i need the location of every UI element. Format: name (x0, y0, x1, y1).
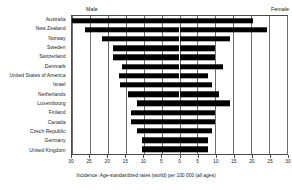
bar-row (72, 16, 287, 25)
bar-female (180, 119, 216, 124)
bar-male (72, 18, 180, 23)
bar-row (72, 25, 287, 34)
category-label: United Kingdom (0, 146, 68, 155)
bar-female (180, 36, 230, 41)
axis-tick-label: 5 (160, 159, 163, 164)
bar-female (180, 73, 209, 78)
bar-male (128, 92, 180, 97)
bar-female (180, 27, 268, 32)
category-axis-labels: AustraliaNew ZealandNorwaySwedenSwitzerl… (0, 15, 68, 155)
bar-female (180, 82, 212, 87)
axis-tick-label: 30 (285, 159, 290, 164)
bar-row (72, 145, 287, 154)
bar-male (113, 55, 179, 60)
bar-female (180, 110, 216, 115)
gridline (287, 16, 288, 154)
axis-tick-label: 30 (68, 159, 73, 164)
category-label: Norway (0, 34, 68, 43)
bar-male (131, 110, 179, 115)
bar-female (180, 46, 216, 51)
bar-row (72, 80, 287, 89)
bar-male (137, 128, 180, 133)
bar-row (72, 117, 287, 126)
bar-female (180, 138, 209, 143)
bar-row (72, 71, 287, 80)
category-label: Czech Republic (0, 127, 68, 136)
bar-male (142, 138, 180, 143)
bar-male (85, 27, 180, 32)
bar-male (131, 119, 179, 124)
bar-female (180, 147, 209, 152)
category-label: Switzerland (0, 52, 68, 61)
axis-tick-label: 25 (86, 159, 91, 164)
category-label: Finland (0, 108, 68, 117)
category-label: Denmark (0, 62, 68, 71)
bar-male (122, 64, 179, 69)
bar-female (180, 128, 212, 133)
axis-caption: Incidence: Age-standardized rates (world… (0, 173, 292, 178)
category-label: United States of America (0, 71, 68, 80)
category-label: Netherlands (0, 90, 68, 99)
category-label: Israel (0, 80, 68, 89)
bar-female (180, 101, 230, 106)
male-series-label: Male (86, 6, 98, 12)
axis-tick-label: 25 (267, 159, 272, 164)
bar-row (72, 99, 287, 108)
plot-area (71, 15, 288, 155)
axis-tick-label: 20 (104, 159, 109, 164)
axis-tick-label: 5 (196, 159, 199, 164)
bar-row (72, 126, 287, 135)
chart-container: Male Female AustraliaNew ZealandNorwaySw… (0, 0, 292, 190)
bar-male (119, 73, 180, 78)
value-axis: 30252015105051015202530 (71, 155, 288, 169)
bar-male (120, 82, 179, 87)
axis-tick-label: 10 (213, 159, 218, 164)
bar-row (72, 136, 287, 145)
female-series-label: Female (271, 6, 289, 12)
bar-row (72, 108, 287, 117)
bar-male (102, 36, 179, 41)
category-label: New Zealand (0, 24, 68, 33)
bar-row (72, 90, 287, 99)
bar-male (113, 46, 179, 51)
axis-tick-label: 0 (178, 159, 181, 164)
bar-row (72, 62, 287, 71)
bar-row (72, 53, 287, 62)
bar-series-group (72, 16, 287, 154)
bar-female (180, 55, 216, 60)
bar-row (72, 44, 287, 53)
bar-male (142, 147, 180, 152)
bar-male (137, 101, 180, 106)
bar-row (72, 34, 287, 43)
bar-female (180, 64, 223, 69)
axis-tick-label: 15 (123, 159, 128, 164)
axis-tick-label: 15 (231, 159, 236, 164)
axis-tick-label: 10 (141, 159, 146, 164)
category-label: Australia (0, 15, 68, 24)
category-label: Germany (0, 136, 68, 145)
axis-tick-label: 20 (249, 159, 254, 164)
category-label: Luxembourg (0, 99, 68, 108)
bar-female (180, 92, 219, 97)
bar-female (180, 18, 253, 23)
category-label: Canada (0, 118, 68, 127)
category-label: Sweden (0, 43, 68, 52)
